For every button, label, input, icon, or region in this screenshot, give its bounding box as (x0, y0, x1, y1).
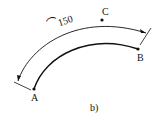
dimension-arc (18, 26, 146, 81)
caption: b) (90, 103, 98, 113)
label-c: C (102, 7, 109, 17)
extension-line-a (14, 82, 31, 90)
point-b (136, 47, 139, 50)
label-b: B (137, 53, 144, 63)
point-a (32, 87, 35, 90)
point-c (100, 18, 103, 21)
arrowhead-a (17, 75, 21, 81)
inner-arc (34, 44, 138, 89)
label-a: A (31, 93, 38, 103)
